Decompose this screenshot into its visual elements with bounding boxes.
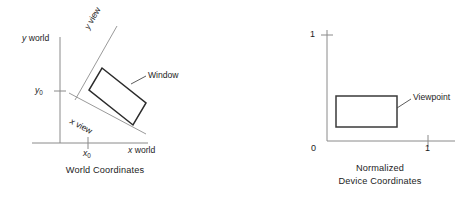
world-x0-tick-label: x0: [83, 148, 91, 158]
window-leader-line: [131, 76, 146, 84]
world-coordinates-caption: World Coordinates: [10, 165, 200, 175]
world-y0-tick-label: y0: [35, 85, 43, 95]
ndc-caption-line1: Normalized: [305, 163, 455, 173]
ndc-y-one-label: 1: [310, 29, 315, 39]
viewpoint-leader-line: [397, 99, 411, 108]
window-rectangle: [89, 68, 146, 125]
viewpoint-label: Viewpoint: [413, 92, 450, 102]
viewport-rectangle: [336, 96, 397, 127]
ndc-panel: [321, 30, 455, 147]
ndc-x-one-label: 1: [425, 143, 430, 153]
window-label: Window: [148, 70, 179, 80]
world-y-axis-label: y world: [22, 33, 49, 43]
ndc-caption-line2: Device Coordinates: [305, 176, 455, 186]
world-x-axis-label: x world: [128, 145, 155, 155]
figure-container: y world x world y0 x0 y view x view Wind…: [0, 0, 476, 203]
ndc-origin-label: 0: [311, 143, 316, 153]
